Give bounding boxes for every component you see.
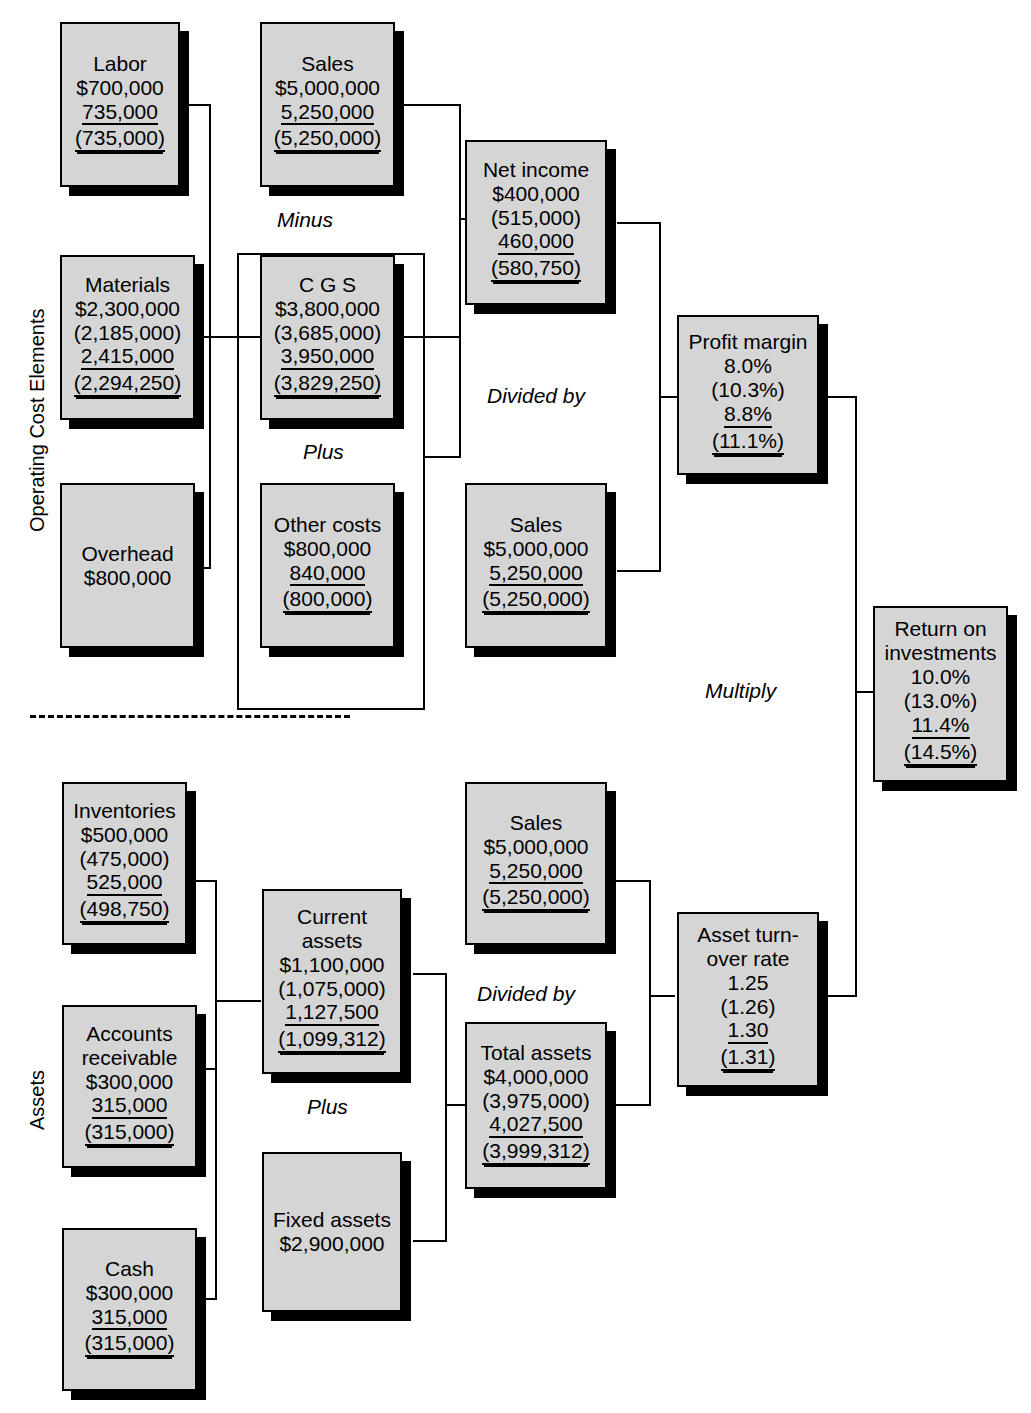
node-return-on-investments[interactable]: Return on investments 10.0% (13.0%) 11.4… [873, 606, 1008, 782]
node-other-costs[interactable]: Other costs $800,000 840,000 (800,000) [260, 483, 395, 648]
node-profit-margin-line-2: 8.8% [724, 402, 772, 428]
node-roi-title-line-2: investments [884, 641, 996, 665]
node-overhead-title: Overhead [81, 542, 173, 566]
node-cgs-line-1: (3,685,000) [274, 321, 381, 345]
node-cash-line-1: 315,000 [92, 1305, 168, 1331]
node-sales-bottom[interactable]: Sales $5,000,000 5,250,000 (5,250,000) [465, 782, 607, 945]
node-inventories-line-3: (498,750) [80, 897, 170, 923]
node-asset-turnover-line-0: 1.25 [728, 971, 769, 995]
connector-divided-by-bottom-bracket [649, 880, 651, 1106]
connector-asset-turnover-out [819, 995, 857, 997]
node-sales-top-title: Sales [301, 52, 354, 76]
connector-current-assets-out [413, 973, 447, 975]
node-current-assets-title-line-1: Current [297, 905, 367, 929]
node-sales-mid[interactable]: Sales $5,000,000 5,250,000 (5,250,000) [465, 483, 607, 648]
node-inventories-title: Inventories [73, 799, 176, 823]
connector-labor-out [177, 104, 211, 106]
connector-sales-mid-out [617, 570, 661, 572]
node-materials-line-2: 2,415,000 [81, 344, 174, 370]
node-materials-line-3: (2,294,250) [74, 371, 181, 397]
node-cgs-title: C G S [299, 273, 356, 297]
node-current-assets-line-3: (1,099,312) [278, 1027, 385, 1053]
node-fixed-assets-title: Fixed assets [273, 1208, 391, 1232]
node-asset-turnover-title-line-1: Asset turn- [697, 923, 799, 947]
node-accounts-receivable-title-line-1: Accounts [86, 1022, 172, 1046]
operator-divided-by-top: Divided by [487, 384, 585, 408]
section-label-assets: Assets [26, 1070, 49, 1130]
node-profit-margin-line-3: (11.1%) [712, 429, 784, 455]
connector-divided-by-bottom-to-turnover [649, 995, 675, 997]
node-total-assets-title: Total assets [481, 1041, 592, 1065]
node-fixed-assets[interactable]: Fixed assets $2,900,000 [262, 1152, 402, 1312]
node-current-assets-line-2: 1,127,500 [285, 1000, 378, 1026]
connector-multiply-bracket [855, 396, 857, 997]
node-asset-turnover-rate[interactable]: Asset turn- over rate 1.25 (1.26) 1.30 (… [677, 912, 819, 1087]
node-sales-bottom-line-1: 5,250,000 [489, 859, 582, 885]
connector-current-assets-bracket [215, 880, 217, 1300]
section-label-operating-cost-elements: Operating Cost Elements [26, 309, 49, 532]
node-roi-line-0: 10.0% [911, 665, 971, 689]
connector-cgs-group-left [237, 253, 239, 710]
node-cgs[interactable]: C G S $3,800,000 (3,685,000) 3,950,000 (… [260, 255, 395, 420]
node-total-assets-line-2: 4,027,500 [489, 1112, 582, 1138]
node-sales-mid-line-0: $5,000,000 [483, 537, 588, 561]
node-labor-line-1: 735,000 [82, 100, 158, 126]
operator-minus: Minus [277, 208, 333, 232]
connector-cgs-group-right [423, 253, 425, 710]
node-sales-mid-line-1: 5,250,000 [489, 561, 582, 587]
node-cgs-line-3: (3,829,250) [274, 371, 381, 397]
node-cash[interactable]: Cash $300,000 315,000 (315,000) [62, 1228, 197, 1391]
node-net-income-line-3: (580,750) [491, 256, 581, 282]
connector-fixed-assets-out [413, 1240, 447, 1242]
node-asset-turnover-line-3: (1.31) [721, 1045, 776, 1071]
node-sales-bottom-line-2: (5,250,000) [482, 885, 589, 911]
node-total-assets[interactable]: Total assets $4,000,000 (3,975,000) 4,02… [465, 1022, 607, 1189]
connector-total-assets-out [613, 1104, 651, 1106]
connector-plus-bottom-bracket [445, 973, 447, 1242]
node-net-income-line-2: 460,000 [498, 229, 574, 255]
node-inventories-line-1: (475,000) [80, 847, 170, 871]
node-roi-line-3: (14.5%) [904, 740, 978, 766]
node-roi-line-1: (13.0%) [904, 689, 978, 713]
node-sales-top-line-2: (5,250,000) [274, 126, 381, 152]
connector-bracket-to-current-assets [215, 1000, 261, 1002]
node-accounts-receivable-line-0: $300,000 [86, 1070, 174, 1094]
node-total-assets-line-1: (3,975,000) [482, 1089, 589, 1113]
operator-plus-top: Plus [303, 440, 344, 464]
node-cash-line-0: $300,000 [86, 1281, 174, 1305]
node-profit-margin-line-0: 8.0% [724, 354, 772, 378]
node-net-income[interactable]: Net income $400,000 (515,000) 460,000 (5… [465, 140, 607, 305]
node-asset-turnover-line-2: 1.30 [728, 1018, 769, 1044]
node-cgs-line-2: 3,950,000 [281, 344, 374, 370]
node-sales-bottom-title: Sales [510, 811, 563, 835]
connector-sales-bottom-out [613, 880, 651, 882]
roi-dupont-diagram: Operating Cost Elements Assets Minus [0, 0, 1031, 1413]
node-current-assets-line-0: $1,100,000 [279, 953, 384, 977]
node-current-assets-line-1: (1,075,000) [278, 977, 385, 1001]
node-current-assets[interactable]: Current assets $1,100,000 (1,075,000) 1,… [262, 889, 402, 1074]
node-materials[interactable]: Materials $2,300,000 (2,185,000) 2,415,0… [60, 255, 195, 420]
node-roi-title-line-1: Return on [894, 617, 986, 641]
node-sales-top-line-1: 5,250,000 [281, 100, 374, 126]
node-overhead-line-0: $800,000 [84, 566, 172, 590]
node-profit-margin[interactable]: Profit margin 8.0% (10.3%) 8.8% (11.1%) [677, 315, 819, 475]
node-sales-top[interactable]: Sales $5,000,000 5,250,000 (5,250,000) [260, 22, 395, 187]
node-cash-line-2: (315,000) [85, 1331, 175, 1357]
node-other-costs-line-1: 840,000 [290, 561, 366, 587]
connector-cgs-group-bottom [237, 708, 425, 710]
node-labor[interactable]: Labor $700,000 735,000 (735,000) [60, 22, 180, 187]
node-materials-line-1: (2,185,000) [74, 321, 181, 345]
operator-multiply: Multiply [705, 679, 776, 703]
node-labor-line-0: $700,000 [76, 76, 164, 100]
node-roi-line-2: 11.4% [912, 713, 970, 739]
node-accounts-receivable[interactable]: Accounts receivable $300,000 315,000 (31… [62, 1005, 197, 1168]
node-other-costs-line-0: $800,000 [284, 537, 372, 561]
node-inventories[interactable]: Inventories $500,000 (475,000) 525,000 (… [62, 782, 187, 945]
node-total-assets-line-3: (3,999,312) [482, 1139, 589, 1165]
section-divider [30, 715, 350, 718]
node-inventories-line-0: $500,000 [81, 823, 169, 847]
node-fixed-assets-line-0: $2,900,000 [279, 1232, 384, 1256]
connector-profit-margin-out [819, 396, 857, 398]
connector-net-income-out [617, 222, 661, 224]
node-overhead[interactable]: Overhead $800,000 [60, 483, 195, 648]
